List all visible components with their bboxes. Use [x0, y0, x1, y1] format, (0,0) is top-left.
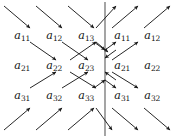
matrix-entry-a31-right: a31: [114, 90, 130, 101]
entry-base: a: [14, 89, 21, 102]
direction-arrow-ne: [112, 6, 138, 28]
entry-base: a: [46, 89, 53, 102]
direction-arrow-ne: [105, 42, 116, 50]
entry-base: a: [14, 59, 21, 72]
entry-base: a: [78, 29, 85, 42]
direction-arrow-ne: [30, 72, 56, 88]
entry-base: a: [144, 59, 151, 72]
entry-subscript: 31: [21, 94, 30, 103]
matrix-entry-a32-right: a32: [144, 90, 160, 101]
entry-subscript: 22: [53, 64, 62, 73]
direction-arrow-ne: [94, 80, 105, 88]
direction-arrow-ne: [70, 42, 96, 60]
matrix-entry-a12-left: a12: [46, 30, 62, 41]
matrix-entry-a11-left: a11: [14, 30, 30, 41]
matrix-entry-a21-right: a21: [114, 60, 130, 71]
direction-arrow-se: [36, 6, 62, 28]
direction-arrow-ne: [112, 42, 138, 60]
direction-arrow-se: [112, 108, 138, 130]
direction-arrow-se: [4, 6, 30, 28]
entry-subscript: 13: [85, 34, 94, 43]
entry-subscript: 21: [121, 64, 130, 73]
matrix-entry-a12-right: a12: [144, 30, 160, 41]
entry-subscript: 22: [151, 64, 160, 73]
matrix-entry-a11-right: a11: [114, 30, 130, 41]
entry-base: a: [114, 29, 121, 42]
entry-base: a: [46, 59, 53, 72]
matrix-entry-a31-left: a31: [14, 90, 30, 101]
entry-subscript: 21: [21, 64, 30, 73]
entry-base: a: [144, 29, 151, 42]
direction-arrow-se: [30, 42, 56, 60]
direction-arrow-ne: [96, 6, 116, 28]
direction-arrow-ne: [36, 108, 62, 130]
direction-arrow-se: [96, 108, 112, 130]
direction-arrow-se: [68, 6, 94, 28]
entry-subscript: 11: [121, 34, 130, 43]
matrix-entry-a23-left: a23: [78, 60, 94, 71]
entry-subscript: 12: [151, 34, 160, 43]
direction-arrow-se: [70, 72, 96, 88]
entry-subscript: 11: [21, 34, 30, 43]
matrix-entry-a22-left: a22: [46, 60, 62, 71]
direction-arrow-se: [94, 42, 105, 50]
entry-subscript: 12: [53, 34, 62, 43]
entry-base: a: [78, 89, 85, 102]
entry-base: a: [78, 59, 85, 72]
matrix-entry-a33-left: a33: [78, 90, 94, 101]
entry-subscript: 32: [53, 94, 62, 103]
matrix-entry-a32-left: a32: [46, 90, 62, 101]
entry-base: a: [114, 59, 121, 72]
entry-base: a: [46, 29, 53, 42]
entry-base: a: [14, 29, 21, 42]
direction-arrow-ne: [68, 108, 94, 130]
matrix-entry-a22-right: a22: [144, 60, 160, 71]
direction-arrow-ne: [144, 6, 170, 28]
entry-subscript: 32: [151, 94, 160, 103]
entry-subscript: 23: [85, 64, 94, 73]
entry-subscript: 31: [121, 94, 130, 103]
entry-base: a: [144, 89, 151, 102]
direction-arrow-se: [62, 42, 88, 60]
matrix-entry-a13-left: a13: [78, 30, 94, 41]
direction-arrow-se: [96, 42, 108, 52]
direction-arrow-se: [144, 108, 170, 130]
entry-base: a: [114, 89, 121, 102]
entry-subscript: 33: [85, 94, 94, 103]
direction-arrow-ne: [4, 108, 30, 130]
matrix-entry-a21-left: a21: [14, 60, 30, 71]
direction-arrow-se: [105, 80, 116, 88]
matrix-reflection-figure: a11a12a13a11a12a21a22a23a21a22a31a32a33a…: [0, 0, 178, 138]
direction-arrow-ne: [62, 72, 88, 88]
